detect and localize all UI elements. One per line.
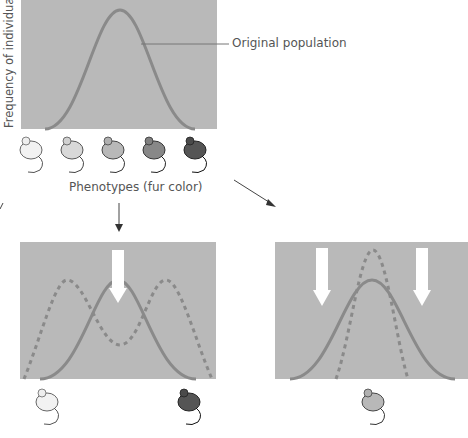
diagram-graphics: [0, 0, 468, 438]
mouse-icon: [36, 389, 59, 425]
mouse-icon: [184, 137, 207, 173]
original-curve: [45, 10, 195, 129]
x-axis-label: Phenotypes (fur color): [69, 180, 203, 194]
mouse-icon: [143, 137, 166, 173]
stabilizing-selection-plot: [275, 242, 468, 379]
original-population-label: Original population: [232, 36, 347, 50]
mouse-icon: [362, 389, 385, 425]
mouse-icon: [102, 137, 125, 173]
phenotype-mice-row: [20, 137, 207, 173]
mouse-icon: [178, 389, 201, 425]
mouse-icon: [20, 137, 43, 173]
mouse-icon: [61, 137, 84, 173]
